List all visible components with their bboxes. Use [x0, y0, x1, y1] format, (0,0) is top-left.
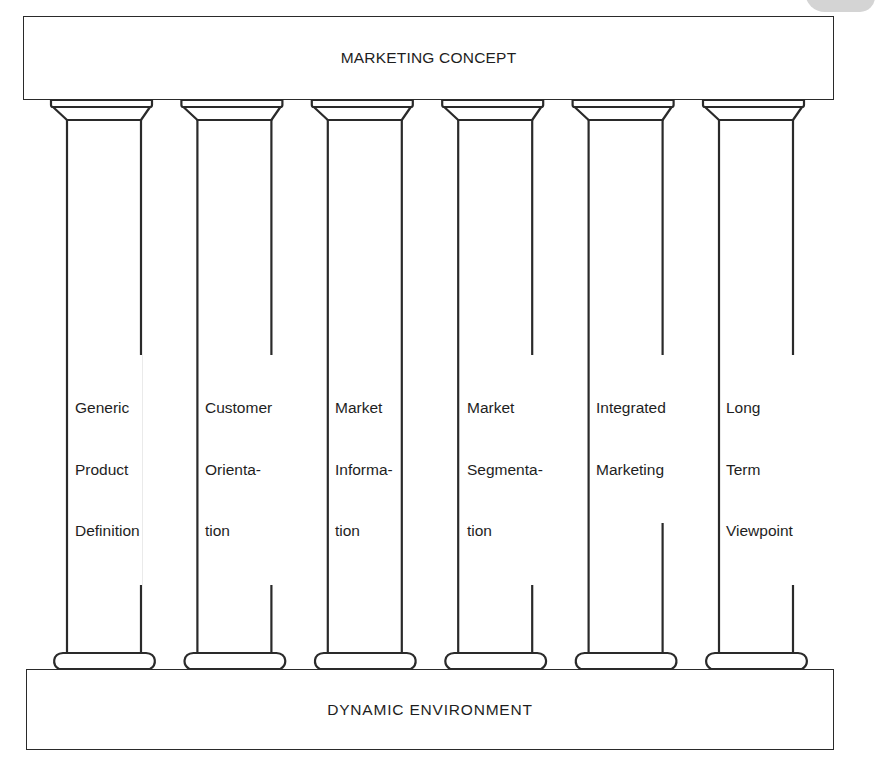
pillar-base — [445, 653, 546, 669]
marketing-concept-label: MARKETING CONCEPT — [341, 49, 517, 67]
pillar-base — [54, 653, 155, 669]
pillar-label-customer-orientation: Customer Orienta- tion — [205, 355, 274, 585]
label-line: Viewpoint — [726, 521, 793, 542]
pillar-capital — [703, 100, 804, 120]
label-line: tion — [467, 521, 543, 542]
label-line: Marketing — [596, 460, 666, 481]
pillar-capital — [51, 100, 152, 120]
pillar-capital — [573, 100, 674, 120]
label-line: Market — [467, 398, 543, 419]
label-line: Orienta- — [205, 460, 272, 481]
pillar-capital — [181, 100, 282, 120]
pillar-base — [185, 653, 286, 669]
label-line: Market — [335, 398, 393, 419]
label-line: Long — [726, 398, 793, 419]
label-line: Informa- — [335, 460, 393, 481]
pillar-capital — [312, 100, 413, 120]
pillars-layer — [51, 100, 807, 669]
label-line: tion — [335, 521, 393, 542]
pillar-label-integrated-marketing: Integrated Marketing — [596, 355, 668, 523]
pillar-label-market-information: Market Informa- tion — [335, 355, 395, 585]
pillar-base — [576, 653, 677, 669]
dynamic-environment-base: DYNAMIC ENVIRONMENT — [26, 669, 834, 750]
label-line: tion — [205, 521, 272, 542]
label-line: Definition — [75, 521, 140, 542]
pillar-base — [315, 653, 416, 669]
label-line: Product — [75, 460, 140, 481]
pillar-capital — [442, 100, 543, 120]
pillar-label-long-term-viewpoint: Long Term Viewpoint — [726, 355, 795, 585]
pillar-label-market-segmentation: Market Segmenta- tion — [467, 355, 545, 585]
pillar-base — [706, 653, 807, 669]
label-line: Generic — [75, 398, 140, 419]
label-line: Integrated — [596, 398, 666, 419]
marketing-concept-beam: MARKETING CONCEPT — [23, 16, 834, 100]
label-line: Term — [726, 460, 793, 481]
dynamic-environment-label: DYNAMIC ENVIRONMENT — [327, 701, 533, 719]
label-line: Customer — [205, 398, 272, 419]
label-line: Segmenta- — [467, 460, 543, 481]
pillar-label-generic-product-definition: Generic Product Definition — [75, 355, 142, 585]
